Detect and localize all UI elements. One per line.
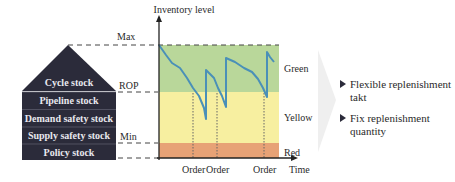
order-label-3: Order [253,164,277,175]
big-arrow-icon [318,50,336,152]
zone-label-red: Red [284,147,300,158]
bullet-item: Flexible replenishment takt [340,78,455,104]
zone-label-green: Green [284,63,308,74]
house-layer-pipeline: Pipeline stock [39,95,99,106]
min-label: Min [120,131,137,142]
y-axis-label: Inventory level [154,4,215,15]
house-layer-supply-safety: Supply safety stock [28,130,111,141]
max-label: Max [117,31,135,42]
triangle-bullet-icon [340,80,346,88]
house-layer-cycle: Cycle stock [45,77,94,88]
house-layer-demand-safety: Demand safety stock [25,113,114,124]
triangle-bullet-icon [340,114,346,122]
bullet-text: Fix replenishment quantity [350,112,430,137]
bullet-list: Flexible replenishment takt Fix replenis… [340,78,455,146]
rop-label: ROP [119,80,139,91]
order-label-2: Order [206,164,230,175]
yellow-zone [159,92,279,143]
y-axis-arrow-icon [156,15,162,22]
x-axis-label: Time [289,164,310,175]
order-label-1: Order [182,164,206,175]
bullet-text: Flexible replenishment takt [350,78,451,103]
zone-label-yellow: Yellow [284,112,313,123]
bullet-item: Fix replenishment quantity [340,112,455,138]
red-zone [159,143,279,158]
house-layer-policy: Policy stock [44,147,95,158]
